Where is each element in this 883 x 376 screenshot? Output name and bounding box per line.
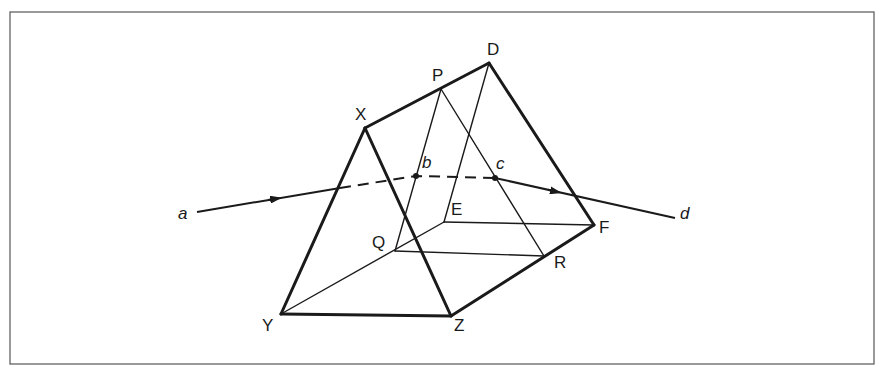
emergent-arrow-icon <box>548 190 556 192</box>
point-b-dot <box>413 173 419 179</box>
label-E: E <box>451 200 462 219</box>
label-Y: Y <box>262 316 273 335</box>
prism-diagram: X P D E F Q R Y Z a b c d <box>0 0 883 376</box>
ray-labels: a b c d <box>178 153 690 223</box>
edge-Q-R <box>395 251 544 256</box>
label-R: R <box>554 253 566 272</box>
edge-P-Q <box>395 89 441 251</box>
edge-X-Y <box>281 128 365 314</box>
label-d: d <box>680 204 690 223</box>
label-a: a <box>178 204 187 223</box>
point-c-dot <box>492 175 498 181</box>
edge-P-R <box>441 89 544 256</box>
label-D: D <box>487 40 499 59</box>
edge-Z-F <box>451 225 594 316</box>
light-ray <box>197 173 675 218</box>
label-Q: Q <box>372 233 385 252</box>
edge-Y-Z <box>281 314 451 316</box>
edge-E-F <box>444 222 594 225</box>
edge-D-F <box>489 63 594 225</box>
label-X: X <box>355 105 366 124</box>
diagram-frame <box>10 12 874 364</box>
edge-X-D <box>365 63 489 128</box>
edge-D-E <box>444 63 489 222</box>
label-P: P <box>432 66 443 85</box>
edge-Y-E <box>281 222 444 314</box>
incident-arrow-icon <box>268 199 276 200</box>
label-c: c <box>496 154 505 173</box>
label-F: F <box>599 218 609 237</box>
vertex-labels: X P D E F Q R Y Z <box>262 40 609 335</box>
edge-X-Z <box>365 128 451 316</box>
label-Z: Z <box>454 316 464 335</box>
label-b: b <box>422 153 431 172</box>
